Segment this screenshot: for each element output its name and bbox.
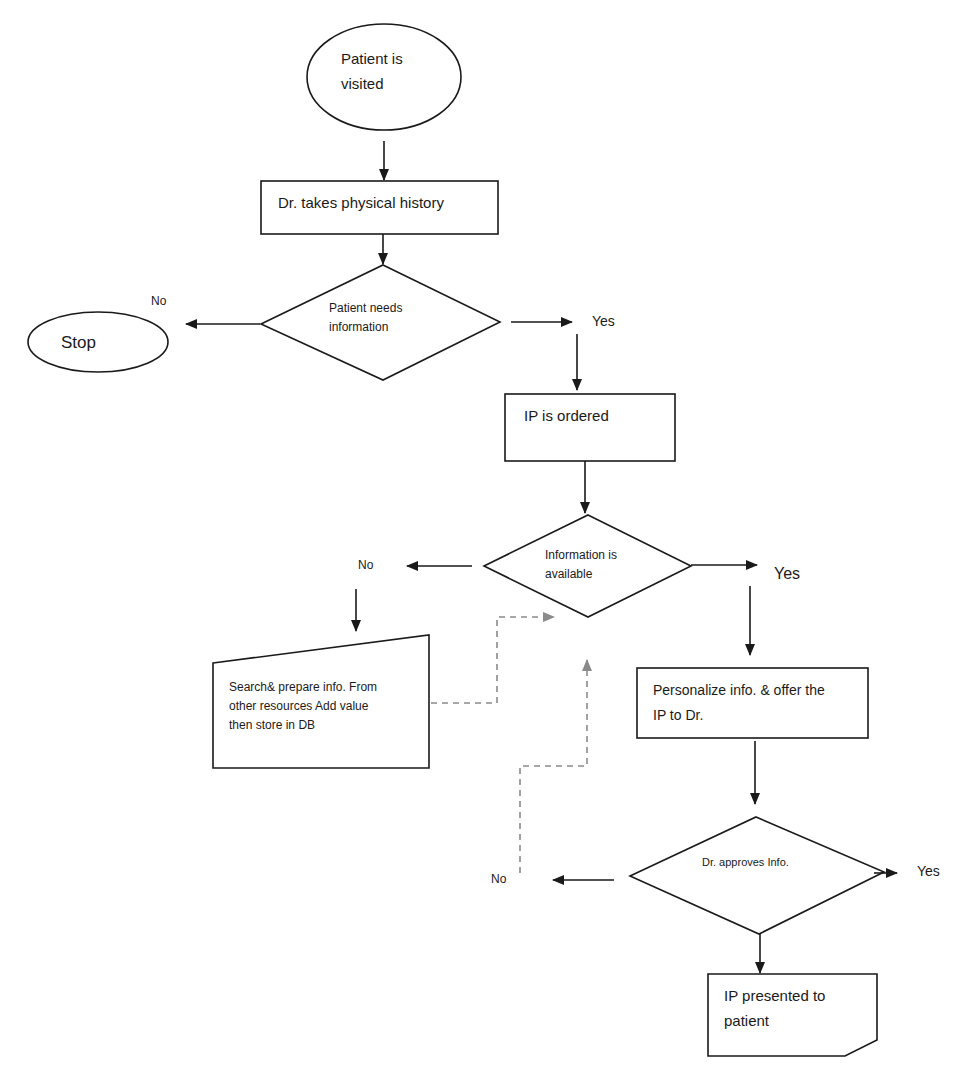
search-line-1: Search& prepare info. From [229, 680, 377, 694]
stop-label: Stop [61, 333, 96, 352]
needs-info-line-1: Patient needs [329, 301, 402, 315]
dashed-arrow-approves-no-to-available [520, 660, 587, 873]
available-yes-label: Yes [774, 565, 800, 582]
approves-yes-label: Yes [917, 863, 940, 879]
node-presented: IP presented to patient [708, 974, 877, 1056]
info-available-diamond [484, 515, 691, 617]
info-available-line-2: available [545, 567, 593, 581]
node-approves: Dr. approves Info. [630, 817, 884, 934]
start-ellipse [307, 24, 461, 130]
node-search: Search& prepare info. From other resourc… [213, 635, 429, 768]
presented-line-2: patient [724, 1012, 770, 1029]
node-history: Dr. takes physical history [261, 181, 498, 234]
ip-ordered-box [505, 394, 675, 461]
approves-no-label: No [491, 872, 507, 886]
stop-ellipse [28, 312, 168, 372]
ip-ordered-label: IP is ordered [524, 407, 609, 424]
needs-yes-label: Yes [592, 313, 615, 329]
node-needs-info: Patient needs information [261, 265, 500, 380]
info-available-line-1: Information is [545, 548, 617, 562]
needs-info-line-2: information [329, 320, 388, 334]
node-ip-ordered: IP is ordered [505, 394, 675, 461]
start-line-1: Patient is [341, 50, 403, 67]
dashed-arrow-search-to-available [431, 617, 554, 703]
presented-line-1: IP presented to [724, 987, 825, 1004]
approves-label: Dr. approves Info. [702, 856, 789, 868]
node-stop: Stop [28, 312, 168, 372]
node-personalize: Personalize info. & offer the IP to Dr. [637, 668, 868, 738]
approves-diamond [630, 817, 884, 934]
start-line-2: visited [341, 75, 384, 92]
personalize-box [637, 668, 868, 738]
search-line-3: then store in DB [229, 718, 315, 732]
flowchart-diagram: Patient is visited Dr. takes physical hi… [0, 0, 962, 1078]
search-line-2: other resources Add value [229, 699, 369, 713]
personalize-line-2: IP to Dr. [653, 707, 703, 723]
node-info-available: Information is available [484, 515, 691, 617]
history-label: Dr. takes physical history [278, 194, 444, 211]
needs-no-label: No [151, 294, 167, 308]
personalize-line-1: Personalize info. & offer the [653, 682, 825, 698]
node-start: Patient is visited [307, 24, 461, 130]
available-no-label: No [358, 558, 374, 572]
